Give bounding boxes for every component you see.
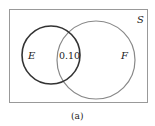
intersection-value: 0.10 — [59, 50, 80, 61]
set-e-label: E — [27, 50, 36, 61]
venn-diagram: S E F 0.10 (a) — [0, 0, 155, 126]
set-f-label: F — [120, 50, 129, 61]
universe-label: S — [137, 14, 144, 25]
caption: (a) — [71, 111, 83, 121]
